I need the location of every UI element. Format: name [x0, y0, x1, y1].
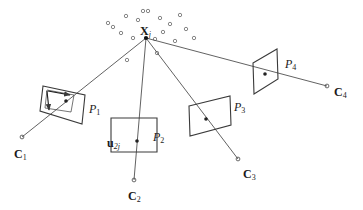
- projection-matrix-label-2: P2: [153, 131, 164, 145]
- cloud-point: [131, 36, 134, 39]
- camera-center-label-3: C3: [243, 168, 256, 182]
- label-subscript: 2: [160, 136, 164, 145]
- label-subscript: 1: [96, 108, 100, 117]
- label-subscript: 3: [252, 173, 256, 182]
- cloud-point: [192, 36, 195, 39]
- cloud-point: [106, 21, 109, 24]
- projection-matrix-label-3: P3: [234, 101, 245, 115]
- ray-c1: [22, 38, 146, 137]
- cloud-point: [119, 31, 122, 34]
- camera-center-markers: [20, 84, 329, 182]
- image-coordinate-frame-p1-v-axis-arrow: [47, 91, 49, 110]
- cloud-point: [111, 25, 114, 28]
- image-plane-p4: [253, 49, 278, 94]
- cloud-point: [178, 13, 181, 16]
- label-subscript: 2j: [114, 142, 120, 151]
- projection-matrix-label-4: P4: [285, 58, 296, 72]
- point-cloud: [106, 9, 195, 61]
- cloud-point: [141, 9, 144, 12]
- projection-rays: [22, 38, 327, 180]
- cloud-point: [124, 14, 127, 17]
- cloud-point: [184, 27, 187, 30]
- cloud-point: [161, 30, 164, 33]
- ray-c2: [134, 38, 146, 180]
- figure-canvas: Xj u2j C1C2C3C4 P1P2P3P4: [0, 0, 363, 210]
- label-subscript: j: [149, 30, 151, 39]
- label-subscript: 3: [241, 106, 245, 115]
- cloud-point: [173, 39, 176, 42]
- image-plane-p3-projected-point: [204, 117, 208, 121]
- image-plane-p3: [189, 96, 231, 136]
- scene-svg: [0, 0, 363, 210]
- image-point-label: u2j: [107, 137, 120, 151]
- label-subscript: 2: [137, 195, 141, 204]
- projection-matrix-label-1: P1: [89, 103, 100, 117]
- image-plane-p4-projected-point: [263, 72, 267, 76]
- label-subscript: 1: [23, 153, 27, 162]
- camera-center-label-2: C2: [128, 190, 141, 204]
- cloud-point: [125, 58, 128, 61]
- label-subscript: 4: [343, 91, 347, 100]
- cloud-point: [158, 16, 161, 19]
- label-base: C: [128, 189, 137, 203]
- cloud-point: [136, 18, 139, 21]
- label-base: C: [243, 167, 252, 181]
- label-base: C: [334, 85, 343, 99]
- camera-center-label-4: C4: [334, 86, 347, 100]
- cloud-point: [168, 22, 171, 25]
- world-point-label: Xj: [140, 25, 151, 39]
- image-plane-p1-projected-point: [64, 99, 68, 103]
- image-coordinate-frame: [45, 90, 74, 112]
- label-base: u: [107, 136, 114, 150]
- label-subscript: 4: [292, 63, 296, 72]
- cloud-point: [146, 9, 149, 12]
- image-plane-p2-projected-point: [135, 139, 139, 143]
- label-base: C: [14, 147, 23, 161]
- camera-center-label-1: C1: [14, 148, 27, 162]
- ray-c4: [146, 38, 327, 86]
- label-base: X: [140, 24, 149, 38]
